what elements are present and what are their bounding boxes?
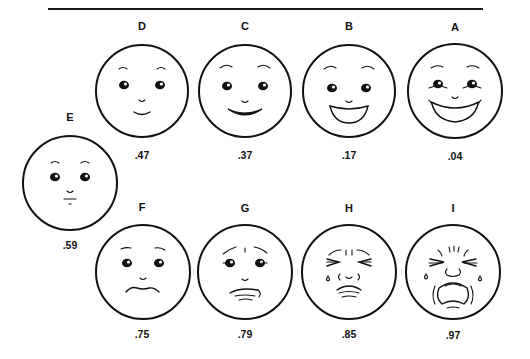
face-e-icon xyxy=(23,136,117,230)
face-c-icon xyxy=(199,45,291,137)
face-g-icon xyxy=(198,225,292,319)
face-f-icon xyxy=(96,225,190,319)
face-i-icon xyxy=(406,225,500,319)
face-h-icon xyxy=(302,225,396,319)
face-b-icon xyxy=(303,45,395,137)
faces-drawing xyxy=(0,0,530,359)
face-d-icon xyxy=(96,45,188,137)
face-a-icon xyxy=(408,44,502,138)
